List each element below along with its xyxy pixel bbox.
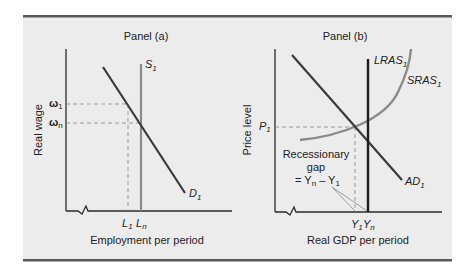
panel-b-x-axis-label: Real GDP per period: [307, 234, 409, 246]
gap-annotation-line3: = Yn – Y1: [295, 174, 340, 188]
bottom-border: [23, 259, 452, 262]
gap-annotation-line2: gap: [307, 161, 325, 173]
panel-a-title: Panel (a): [124, 30, 169, 42]
panel-b-title: Panel (b): [323, 30, 368, 42]
panel-a-y-axis-label: Real wage: [32, 104, 44, 156]
figure-background: [23, 16, 452, 261]
gap-annotation-line1: Recessionary: [283, 148, 350, 160]
top-border: [23, 15, 452, 18]
panel-b-y-axis-label: Price level: [241, 105, 253, 156]
panel-a-x-axis-label: Employment per period: [90, 234, 204, 246]
